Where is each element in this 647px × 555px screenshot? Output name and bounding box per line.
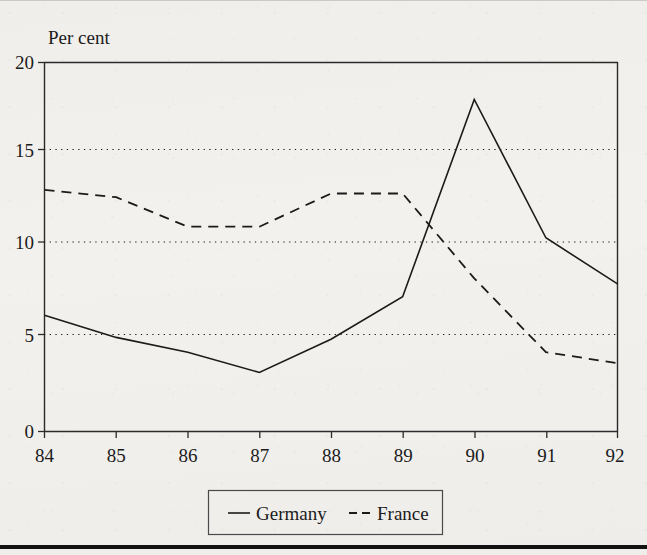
legend-label-france: France [377,503,429,524]
x-tick-labels: 84 85 86 87 88 89 90 91 92 [35,445,625,466]
page-bottom-rule [0,545,647,549]
y-tick-marks [38,63,44,432]
x-tick-label-90: 90 [466,445,485,466]
gridlines [44,150,618,335]
x-tick-label-87: 87 [250,445,269,466]
y-tick-label-0: 0 [25,421,35,442]
plot-frame [44,62,618,432]
series-line-germany [45,99,618,372]
x-tick-label-85: 85 [107,445,126,466]
x-tick-marks [45,432,618,438]
line-chart: Per cent 20 15 10 5 0 84 85 86 87 88 89 … [0,0,647,545]
y-tick-label-5: 5 [25,325,35,346]
chart-legend: Germany France [209,491,443,535]
x-tick-label-86: 86 [179,445,198,466]
y-tick-label-10: 10 [15,232,34,253]
series-layer [45,99,618,372]
y-tick-labels: 20 15 10 5 0 [15,52,34,442]
x-tick-label-92: 92 [606,445,625,466]
figure-page: Per cent 20 15 10 5 0 84 85 86 87 88 89 … [0,0,647,555]
x-tick-label-88: 88 [322,445,341,466]
x-tick-label-91: 91 [537,445,556,466]
y-tick-label-15: 15 [15,140,34,161]
series-line-france [45,190,618,363]
y-tick-label-20: 20 [15,52,34,73]
y-axis-caption: Per cent [48,27,110,48]
x-tick-label-84: 84 [35,445,55,466]
x-tick-label-89: 89 [394,445,413,466]
legend-label-germany: Germany [256,503,327,524]
